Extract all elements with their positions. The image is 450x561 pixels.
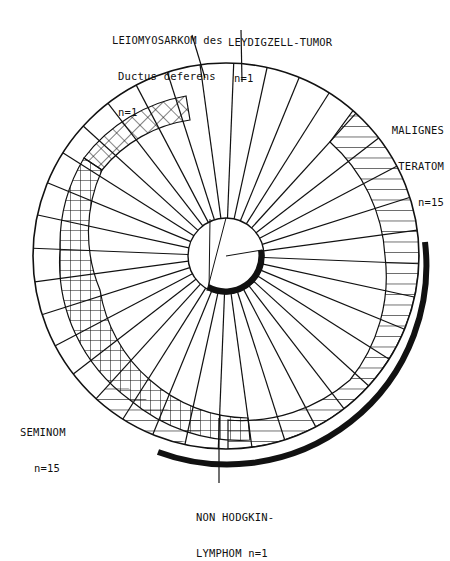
label-line: Ductus deferens [112, 70, 223, 82]
label-line: LEIOMYOSARKOM des [112, 34, 223, 46]
label-line: NON HODGKIN- [196, 511, 274, 523]
label-line: n=15 [384, 196, 444, 208]
radial-spoke [31, 248, 188, 254]
label-line: LEYDIGZELL-TUMOR [228, 36, 332, 48]
label-line: MALIGNES [384, 124, 444, 136]
label-non-hodgkin: NON HODGKIN- LYMPHOM n=1 [196, 487, 274, 561]
radial-spoke [258, 276, 391, 360]
radial-spoke [246, 91, 330, 224]
radial-spoke [33, 261, 189, 282]
label-line: n=1 [112, 106, 223, 118]
label-line: n=1 [228, 72, 332, 84]
label-line: SEMINOM [10, 426, 60, 438]
label-leiomyosarkom: LEIOMYOSARKOM des Ductus deferens n=1 [112, 10, 223, 142]
label-line: TERATOM [384, 160, 444, 172]
radial-spoke [252, 112, 358, 228]
label-malignes-teratom: MALIGNES TERATOM n=15 [384, 100, 444, 232]
label-leydigzell: LEYDIGZELL-TUMOR n=1 [228, 12, 332, 108]
label-seminom: SEMINOM n=15 [10, 402, 60, 498]
radial-spoke [254, 282, 370, 388]
label-line: LYMPHOM n=1 [196, 547, 274, 559]
label-line: n=15 [10, 462, 60, 474]
